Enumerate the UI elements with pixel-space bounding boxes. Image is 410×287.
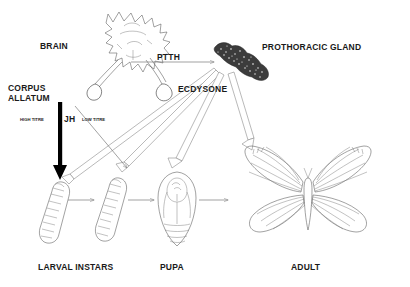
jh-low-titre-label: LOW TITRE — [82, 117, 105, 122]
pupa-label: PUPA — [160, 262, 184, 272]
pupa-drawing — [158, 172, 196, 246]
ecdysone-label: ECDYSONE — [178, 84, 227, 94]
ecdysone-arrow-adult — [228, 72, 254, 150]
adult-label: ADULT — [291, 262, 320, 272]
corpus-allatum-label-line2: ALLATUM — [8, 93, 50, 103]
larval-instars-label: LARVAL INSTARS — [38, 262, 113, 272]
ptth-label: PTTH — [157, 52, 180, 62]
metamorphosis-hormone-diagram: BRAIN PTTH PROTHORACIC GLAND ECDYSONE CO… — [0, 0, 410, 287]
jh-label: JH — [64, 114, 75, 124]
brain-label: BRAIN — [40, 41, 68, 51]
adult-butterfly-drawing — [245, 146, 371, 232]
jh-high-titre-label: HIGH TITRE — [20, 117, 44, 122]
corpus-allatum-label-line1: CORPUS — [8, 83, 50, 93]
corpus-allatum-label: CORPUS ALLATUM — [8, 83, 50, 103]
larva-1-drawing — [39, 182, 69, 243]
prothoracic-gland-label: PROTHORACIC GLAND — [262, 42, 361, 52]
larva-2-drawing — [95, 178, 126, 241]
